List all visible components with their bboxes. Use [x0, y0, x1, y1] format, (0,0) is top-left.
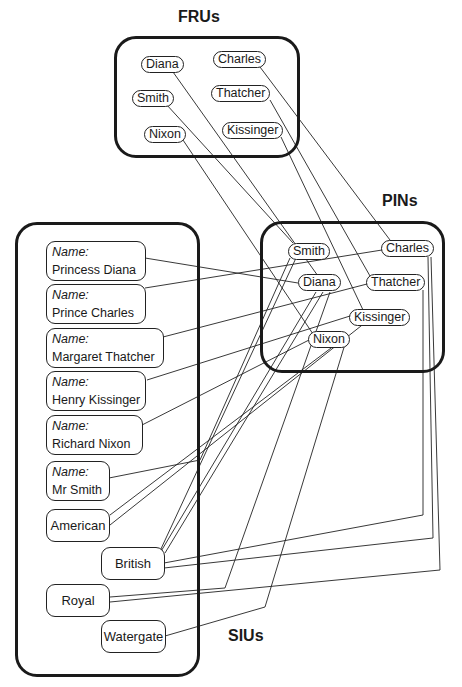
name-label: Name: — [52, 330, 158, 348]
pins-title: PINs — [382, 192, 418, 210]
name-label: Name: — [52, 417, 137, 435]
fru-thatcher[interactable]: Thatcher — [211, 85, 270, 102]
name-value: Margaret Thatcher — [52, 348, 158, 366]
name-value: Princess Diana — [52, 261, 140, 279]
sius-title: SIUs — [228, 627, 264, 645]
pin-smith[interactable]: Smith — [288, 243, 330, 260]
name-label: Name: — [52, 286, 140, 304]
name-label: Name: — [52, 243, 140, 261]
fru-kissinger[interactable]: Kissinger — [222, 122, 283, 139]
siu-name-henry-kissinger[interactable]: Name: Henry Kissinger — [46, 371, 146, 411]
siu-name-prince-charles[interactable]: Name: Prince Charles — [46, 284, 146, 324]
siu-name-richard-nixon[interactable]: Name: Richard Nixon — [46, 415, 143, 455]
name-label: Name: — [52, 463, 104, 481]
fru-nixon[interactable]: Nixon — [144, 126, 186, 143]
fru-charles[interactable]: Charles — [213, 51, 266, 68]
frus-title: FRUs — [178, 8, 220, 26]
name-value: Henry Kissinger — [52, 391, 140, 409]
pin-kissinger[interactable]: Kissinger — [349, 309, 410, 326]
fru-smith[interactable]: Smith — [132, 90, 174, 107]
pin-charles[interactable]: Charles — [381, 240, 434, 257]
name-value: Mr Smith — [52, 481, 104, 499]
fru-diana[interactable]: Diana — [141, 56, 184, 73]
name-label: Name: — [52, 373, 140, 391]
pin-diana[interactable]: Diana — [298, 274, 341, 291]
siu-name-princess-diana[interactable]: Name: Princess Diana — [46, 241, 146, 281]
pin-thatcher[interactable]: Thatcher — [366, 274, 425, 291]
siu-attr-american[interactable]: American — [46, 509, 110, 542]
siu-attr-watergate[interactable]: Watergate — [101, 620, 166, 653]
siu-name-mr-smith[interactable]: Name: Mr Smith — [46, 461, 110, 501]
siu-name-margaret-thatcher[interactable]: Name: Margaret Thatcher — [46, 328, 164, 368]
name-value: Richard Nixon — [52, 435, 137, 453]
name-value: Prince Charles — [52, 304, 140, 322]
siu-attr-british[interactable]: British — [101, 547, 165, 580]
siu-attr-royal[interactable]: Royal — [46, 584, 110, 617]
pin-nixon[interactable]: Nixon — [308, 331, 350, 348]
